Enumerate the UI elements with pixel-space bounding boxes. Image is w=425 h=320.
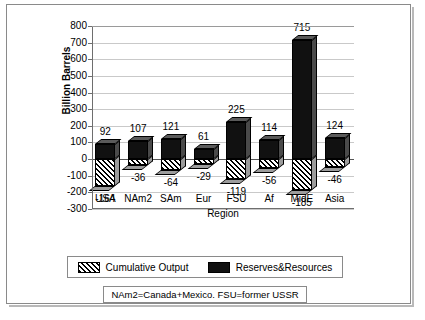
legend-label: Reserves&Resources (236, 262, 333, 273)
plot-area: 92-164107-36121-6461-29225-119114-56715-… (92, 26, 354, 209)
y-tick-mark (88, 43, 92, 44)
y-tick-mark (88, 159, 92, 160)
y-tick-mark (88, 76, 92, 77)
y-tick-label: 100 (53, 137, 87, 147)
x-tick-label: FSU (220, 193, 253, 204)
y-tick-label: 300 (53, 104, 87, 114)
x-tick-label: Asia (318, 193, 351, 204)
y-tick-mark (88, 126, 92, 127)
legend-item[interactable]: Cumulative Output (78, 262, 189, 273)
y-tick-mark (88, 109, 92, 110)
legend-swatch (78, 262, 100, 273)
chart-legend: Cumulative OutputReserves&Resources (67, 256, 343, 278)
y-tick-label: -300 (53, 204, 87, 214)
footnote-text: NAm2=Canada+Mexico. FSU=former USSR (111, 290, 298, 300)
y-tick-label: 700 (53, 38, 87, 48)
x-tick-label: USA (89, 193, 122, 204)
legend-item[interactable]: Reserves&Resources (208, 262, 333, 273)
x-tick-label: SAm (155, 193, 188, 204)
x-tick-label: NAm2 (122, 193, 155, 204)
y-tick-label: 800 (53, 21, 87, 31)
y-tick-label: 0 (53, 154, 87, 164)
y-tick-label: 400 (53, 88, 87, 98)
y-tick-label: -200 (53, 187, 87, 197)
y-tick-mark (88, 142, 92, 143)
y-tick-label: 200 (53, 121, 87, 131)
chart-frame: Billion Barrels 92-164107-36121-6461-292… (6, 4, 411, 304)
y-tick-label: -100 (53, 171, 87, 181)
plot-border (92, 26, 354, 209)
footnote-box: NAm2=Canada+Mexico. FSU=former USSR (103, 286, 307, 303)
plot-back-wall-edge (92, 26, 354, 27)
x-tick-label: Af (253, 193, 286, 204)
legend-label: Cumulative Output (106, 262, 189, 273)
x-axis-title: Region (92, 208, 354, 219)
x-tick-label: MidE (286, 193, 319, 204)
y-tick-mark (88, 93, 92, 94)
x-tick-label: Eur (187, 193, 220, 204)
legend-swatch (208, 262, 230, 273)
y-tick-label: 500 (53, 71, 87, 81)
y-tick-label: 600 (53, 54, 87, 64)
y-tick-mark (88, 176, 92, 177)
y-tick-mark (88, 59, 92, 60)
